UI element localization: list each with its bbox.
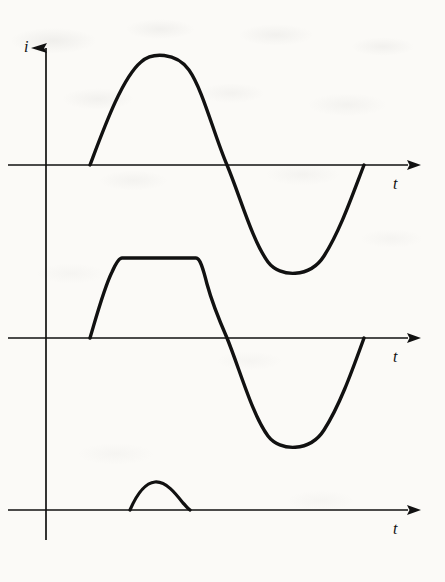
axis-label-time-2: t (393, 349, 397, 365)
axis-label-current-i: i (24, 39, 28, 55)
waveform-curve-clipped (90, 258, 364, 447)
waveform-diagram-svg (0, 0, 445, 582)
waveform-panel-3-small-pulse (130, 482, 190, 510)
waveform-figure: i t t t (0, 0, 445, 582)
axes-group (8, 48, 408, 540)
waveform-curve-half-sine-pulse (130, 482, 190, 510)
axis-label-time-1: t (393, 176, 397, 192)
axis-label-time-3: t (393, 521, 397, 537)
waveform-panel-2-clipped-sine (90, 258, 364, 447)
